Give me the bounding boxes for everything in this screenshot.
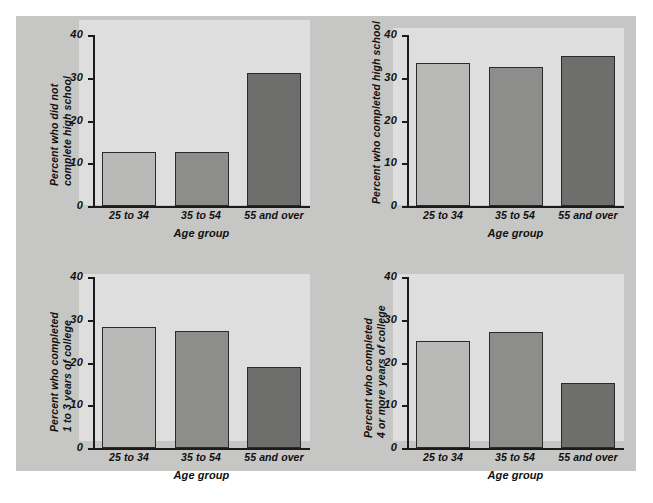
- y-axis-tick: [88, 78, 94, 80]
- y-axis-label: Percent who completed1 to 3 years of col…: [48, 312, 73, 432]
- chart-panel-percent-completed-4-or-more-years-college: 01020304025 to 3435 to 5455 and over Per…: [330, 260, 636, 471]
- y-axis-tick: [402, 78, 408, 80]
- y-axis-tick: [88, 206, 94, 208]
- x-axis-category-label: 55 and over: [552, 451, 624, 463]
- y-axis-tick: [88, 163, 94, 165]
- bar-25-to-34[interactable]: [416, 63, 470, 206]
- y-axis-tick: [88, 405, 94, 407]
- x-axis-category-label: 25 to 34: [407, 451, 479, 463]
- bar-55-and-over[interactable]: [247, 367, 301, 448]
- x-axis-label: Age group: [407, 469, 624, 481]
- chart-panel-percent-completed-1-to-3-years-college: 01020304025 to 3435 to 5455 and over Per…: [16, 260, 326, 471]
- y-axis-label: Percent who did notcomplete high school: [48, 76, 73, 186]
- bar-55-and-over[interactable]: [561, 56, 615, 206]
- y-axis-tick-label: 0: [59, 199, 83, 211]
- x-axis-category-label: 35 to 54: [165, 209, 237, 221]
- y-axis-tick-label: 40: [373, 270, 397, 282]
- y-axis-tick: [402, 121, 408, 123]
- y-axis-tick: [402, 35, 408, 37]
- y-axis-tick: [88, 35, 94, 37]
- bar-35-to-54[interactable]: [489, 332, 543, 448]
- y-axis-tick: [88, 121, 94, 123]
- y-axis-tick: [402, 363, 408, 365]
- y-axis-tick: [88, 448, 94, 450]
- bar-25-to-34[interactable]: [102, 327, 156, 448]
- x-axis-line: [407, 206, 624, 208]
- x-axis-category-label: 55 and over: [552, 209, 624, 221]
- y-axis-tick: [402, 448, 408, 450]
- figure-panel: 01020304025 to 3435 to 5455 and over Per…: [16, 16, 636, 471]
- x-axis-category-label: 55 and over: [238, 451, 310, 463]
- bar-35-to-54[interactable]: [489, 67, 543, 206]
- x-axis-category-label: 25 to 34: [93, 209, 165, 221]
- x-axis-category-label: 55 and over: [238, 209, 310, 221]
- x-axis-line: [93, 206, 310, 208]
- x-axis-label: Age group: [93, 469, 310, 481]
- x-axis-category-label: 35 to 54: [479, 451, 551, 463]
- y-axis-tick: [402, 206, 408, 208]
- bar-55-and-over[interactable]: [561, 383, 615, 448]
- y-axis-tick-label: 0: [59, 441, 83, 453]
- bar-25-to-34[interactable]: [416, 341, 470, 448]
- y-axis-tick-label: 0: [373, 441, 397, 453]
- y-axis-tick: [402, 163, 408, 165]
- x-axis-label: Age group: [93, 227, 310, 239]
- x-axis-category-label: 25 to 34: [93, 451, 165, 463]
- chart-panel-percent-completed-high-school: 01020304025 to 3435 to 5455 and over Per…: [330, 16, 636, 249]
- y-axis-tick: [402, 320, 408, 322]
- x-axis-category-label: 35 to 54: [479, 209, 551, 221]
- y-axis-tick: [88, 277, 94, 279]
- y-axis-tick-label: 40: [59, 270, 83, 282]
- y-axis-tick: [88, 320, 94, 322]
- bar-35-to-54[interactable]: [175, 152, 229, 206]
- x-axis-line: [407, 448, 624, 450]
- x-axis-category-label: 35 to 54: [165, 451, 237, 463]
- bar-25-to-34[interactable]: [102, 152, 156, 206]
- y-axis-label: Percent who completed high school: [370, 21, 382, 204]
- y-axis-tick: [402, 405, 408, 407]
- y-axis-label: Percent who completed4 or more years of …: [362, 305, 387, 438]
- y-axis-tick: [402, 277, 408, 279]
- y-axis-tick-label: 40: [59, 28, 83, 40]
- x-axis-line: [93, 448, 310, 450]
- chart-panel-percent-did-not-complete-high-school: 01020304025 to 3435 to 5455 and over Per…: [16, 16, 326, 249]
- y-axis-tick: [88, 363, 94, 365]
- x-axis-label: Age group: [407, 227, 624, 239]
- x-axis-category-label: 25 to 34: [407, 209, 479, 221]
- bar-35-to-54[interactable]: [175, 331, 229, 448]
- bar-55-and-over[interactable]: [247, 73, 301, 206]
